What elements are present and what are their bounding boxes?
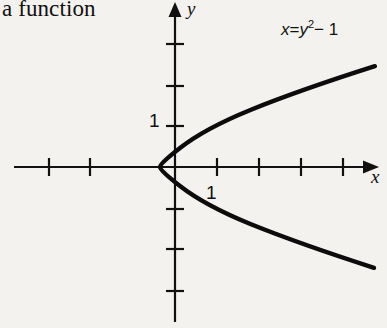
y-axis-tick-label-one: 1 — [149, 110, 160, 132]
x-axis-label: x — [371, 166, 379, 188]
y-axis-label: y — [187, 0, 195, 20]
coordinate-plot — [0, 0, 387, 328]
y-axis-arrowhead — [169, 2, 182, 17]
figure-container: a function x=y2− 1 y x 1 1 — [0, 0, 387, 328]
x-axis-tick-label-one: 1 — [206, 182, 217, 204]
